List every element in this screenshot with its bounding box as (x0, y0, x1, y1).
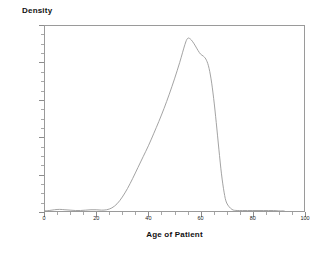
x-axis-ticks: 020406080100 (0, 0, 329, 254)
x-tick-minor (70, 212, 71, 215)
x-tick-label: 40 (145, 215, 151, 221)
x-tick-label: 0 (42, 215, 45, 221)
x-tick-minor (227, 212, 228, 215)
x-tick-minor (83, 212, 84, 215)
x-tick-label: 20 (93, 215, 99, 221)
x-tick-minor (266, 212, 267, 215)
x-tick-minor (122, 212, 123, 215)
x-tick-minor (161, 212, 162, 215)
x-tick-minor (214, 212, 215, 215)
density-plot-figure: Density 00.010.020.030.040.05 0204060801… (0, 0, 329, 254)
x-tick-label: 60 (198, 215, 204, 221)
x-tick-minor (188, 212, 189, 215)
x-axis-title: Age of Patient (44, 230, 305, 239)
x-tick-minor (57, 212, 58, 215)
x-tick-minor (175, 212, 176, 215)
x-tick-minor (292, 212, 293, 215)
x-tick-minor (135, 212, 136, 215)
x-tick-minor (279, 212, 280, 215)
x-tick-label: 80 (250, 215, 256, 221)
x-tick-minor (109, 212, 110, 215)
x-tick-minor (240, 212, 241, 215)
x-tick-label: 100 (300, 215, 309, 221)
